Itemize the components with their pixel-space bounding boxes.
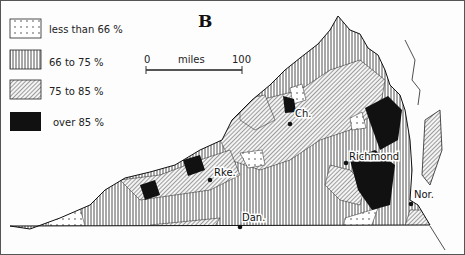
city-label-richmond: Richmond — [349, 151, 399, 162]
legend-label-4: over 85 % — [53, 117, 104, 128]
city-dot-norfolk — [409, 202, 414, 207]
scale-bar: 0 miles 100 — [144, 54, 251, 74]
city-label-charlottesville: Ch. — [295, 108, 312, 119]
city-dot-richmond — [344, 161, 349, 166]
legend-swatch-diagonal — [10, 80, 41, 99]
legend-swatch-dots — [10, 19, 41, 38]
city-label-danville: Dan. — [242, 212, 265, 223]
scale-unit: miles — [178, 54, 205, 65]
legend-label-1: less than 66 % — [49, 24, 123, 35]
scale-end: 100 — [232, 54, 251, 65]
legend: less than 66 % 66 to 75 % 75 to 85 % ove… — [10, 19, 123, 131]
city-label-roanoke: Rke. — [214, 167, 236, 178]
legend-label-2: 66 to 75 % — [49, 57, 104, 68]
city-dot-danville — [238, 225, 243, 230]
legend-swatch-vertical — [10, 50, 41, 69]
scale-start: 0 — [144, 54, 150, 65]
city-dot-charlottesville — [288, 122, 293, 127]
panel-label: B — [198, 11, 212, 31]
legend-swatch-solid — [10, 112, 41, 131]
legend-label-3: 75 to 85 % — [49, 86, 104, 97]
city-dot-roanoke — [208, 178, 213, 183]
city-label-norfolk: Nor. — [414, 189, 434, 200]
virginia-choropleth-map: less than 66 % 66 to 75 % 75 to 85 % ove… — [0, 0, 465, 255]
